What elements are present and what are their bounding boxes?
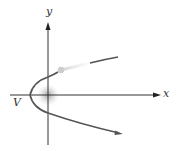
y-axis-label: y bbox=[46, 6, 52, 17]
moving-point bbox=[58, 67, 64, 73]
x-axis-label: x bbox=[163, 88, 169, 99]
y-axis-arrow-icon bbox=[46, 22, 51, 30]
vertex-label: V bbox=[13, 97, 21, 108]
lower-branch-arrow-icon bbox=[115, 131, 124, 136]
parabola-upper-branch-far bbox=[90, 57, 118, 63]
x-axis-arrow-icon bbox=[153, 93, 161, 98]
diagram-svg bbox=[0, 0, 178, 151]
motion-trail bbox=[61, 63, 90, 70]
parabola-diagram: y x V bbox=[0, 0, 178, 151]
